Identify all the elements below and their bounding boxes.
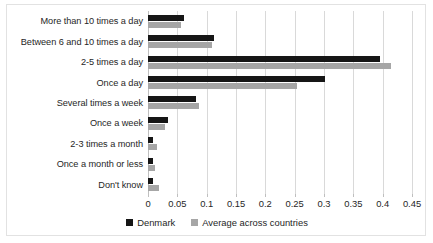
tick-label: 0.05 [168,198,186,209]
tick-mark [207,194,208,197]
legend-item[interactable]: Average across countries [191,217,308,228]
tick-label: 0.2 [259,198,272,209]
bar-average[interactable] [148,83,297,89]
tick-label: 0.3 [317,198,330,209]
bar-group[interactable] [148,72,412,92]
tick-label: 0.1 [200,198,213,209]
legend-item[interactable]: Denmark [126,217,175,228]
bar-average[interactable] [148,22,181,28]
bar-denmark[interactable] [148,158,153,164]
tick-mark [324,194,325,197]
bar-denmark[interactable] [148,137,153,143]
category-label: Between 6 and 10 times a day [7,31,148,51]
tick-label: 0 [145,198,150,209]
chart-plot-wrapper: More than 10 times a dayBetween 6 and 10… [7,5,427,237]
bar-group[interactable] [148,113,412,133]
tick-mark [265,194,266,197]
category-label: Once a day [7,72,148,92]
category-axis: More than 10 times a dayBetween 6 and 10… [7,11,148,195]
tick-mark [177,194,178,197]
legend-label: Average across countries [202,217,308,228]
chart-legend: DenmarkAverage across countries [7,217,427,228]
tick-label: 0.45 [403,198,421,209]
bar-group[interactable] [148,134,412,154]
bar-average[interactable] [148,42,212,48]
legend-swatch-icon [126,219,133,226]
bar-denmark[interactable] [148,117,168,123]
bar-denmark[interactable] [148,178,153,184]
category-label: Once a week [7,113,148,133]
bar-group[interactable] [148,154,412,174]
tick-mark [353,194,354,197]
legend-label: Denmark [137,217,175,228]
tick-label: 0.4 [376,198,389,209]
bar-average[interactable] [148,124,165,130]
category-label: Several times a week [7,93,148,113]
bar-average[interactable] [148,144,157,150]
bar-group[interactable] [148,11,412,31]
bar-denmark[interactable] [148,76,325,82]
bar-average[interactable] [148,165,155,171]
tick-mark [295,194,296,197]
category-label: Don't know [7,175,148,195]
tick-mark [383,194,384,197]
tick-label: 0.15 [227,198,245,209]
category-label: Once a month or less [7,154,148,174]
bar-average[interactable] [148,185,159,191]
tick-label: 0.25 [286,198,304,209]
tick-label: 0.35 [344,198,362,209]
bar-denmark[interactable] [148,35,214,41]
bar-group[interactable] [148,52,412,72]
bar-average[interactable] [148,103,199,109]
bar-denmark[interactable] [148,96,196,102]
bar-group[interactable] [148,175,412,195]
bar-denmark[interactable] [148,56,380,62]
category-label: 2-3 times a month [7,134,148,154]
tick-mark [236,194,237,197]
category-label: More than 10 times a day [7,11,148,31]
plot-area [148,11,412,195]
value-axis: 00.050.10.150.20.250.30.350.40.45 [148,196,412,214]
bar-denmark[interactable] [148,15,184,21]
tick-mark [148,194,149,197]
gridline [412,11,413,195]
category-label: 2-5 times a day [7,52,148,72]
legend-swatch-icon [191,219,198,226]
bar-group[interactable] [148,93,412,113]
bar-average[interactable] [148,63,391,69]
chart-container: More than 10 times a dayBetween 6 and 10… [6,4,426,236]
tick-mark [412,194,413,197]
bar-group[interactable] [148,31,412,51]
